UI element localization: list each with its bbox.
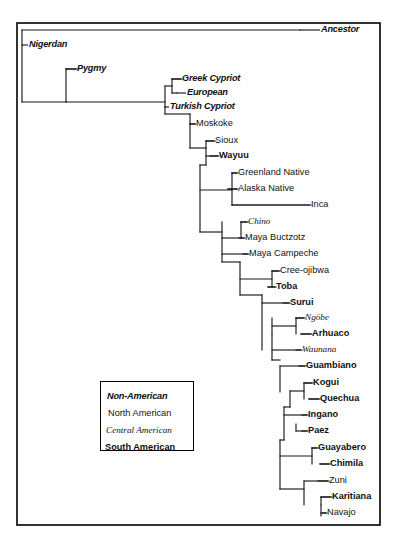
tip-label-european: European bbox=[187, 88, 228, 97]
tip-label-alaska-native: Alaska Native bbox=[238, 184, 294, 193]
tip-label-maya-buctzotz: Maya Buctzotz bbox=[245, 233, 305, 242]
legend-entry-central-american: Central American bbox=[106, 426, 172, 435]
tip-label-inca: Inca bbox=[311, 200, 328, 209]
tip-label-karitiana: Karitiana bbox=[332, 492, 371, 501]
tip-label-greenland-native: Greenland Native bbox=[238, 168, 310, 177]
tip-label-ingano: Ingano bbox=[308, 410, 338, 419]
tip-label-zuni: Zuni bbox=[329, 476, 347, 485]
tip-label-ng-be: Ngöbe bbox=[305, 313, 329, 322]
tip-label-wayuu: Wayuu bbox=[219, 151, 249, 160]
tip-label-chino: Chino bbox=[248, 217, 270, 226]
tip-label-turkish-cypriot: Turkish Cypriot bbox=[170, 102, 235, 111]
tip-label-guambiano: Guambiano bbox=[306, 361, 357, 370]
tip-label-maya-campeche: Maya Campeche bbox=[249, 249, 318, 258]
phylogenetic-tree-figure: AncestorNigerdanPygmyGreek CypriotEurope… bbox=[0, 0, 400, 543]
tip-label-waunana: Waunana bbox=[302, 345, 336, 354]
tip-label-cree-ojibwa: Cree-ojibwa bbox=[280, 266, 329, 275]
tip-label-chimila: Chimila bbox=[330, 459, 363, 468]
tip-label-arhuaco: Arhuaco bbox=[312, 329, 349, 338]
legend-entry-south-american: South American bbox=[105, 443, 175, 452]
legend-entry-non-american: Non-American bbox=[107, 392, 167, 401]
tip-label-navajo: Navajo bbox=[327, 508, 356, 517]
tip-label-surui: Surui bbox=[290, 298, 313, 307]
legend-entry-north-american: North American bbox=[108, 409, 171, 418]
tip-label-moskoke: Moskoke bbox=[196, 119, 233, 128]
tip-label-sioux: Sioux bbox=[215, 136, 238, 145]
tip-label-pygmy: Pygmy bbox=[77, 64, 106, 73]
tip-label-kogui: Kogui bbox=[313, 378, 339, 387]
tip-label-paez: Paez bbox=[308, 426, 329, 435]
tip-label-guayabero: Guayabero bbox=[318, 443, 366, 452]
tip-label-greek-cypriot: Greek Cypriot bbox=[182, 74, 240, 83]
tip-label-toba: Toba bbox=[276, 282, 297, 291]
tip-label-nigerdan: Nigerdan bbox=[29, 40, 67, 49]
tip-label-ancestor: Ancestor bbox=[321, 25, 359, 34]
tip-label-quechua: Quechua bbox=[320, 394, 359, 403]
